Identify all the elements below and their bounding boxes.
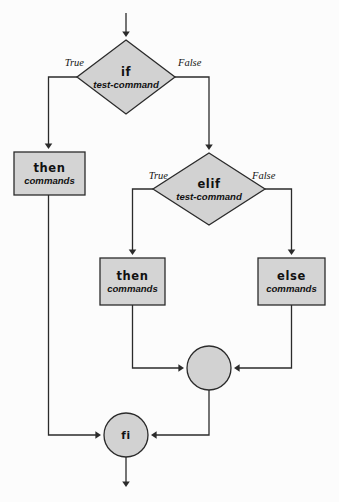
if-false-edge-label: False	[177, 57, 202, 68]
if-true-connector	[49, 77, 78, 146]
elif-subtitle-label: test-command	[176, 191, 243, 202]
node-then-secondary[interactable]: then commands	[100, 258, 165, 305]
elif-true-edge-label: True	[149, 170, 169, 181]
elif-false-connector	[265, 189, 292, 252]
node-if-decision[interactable]: if test-command	[77, 40, 175, 114]
then-secondary-to-merge-connector	[133, 305, 182, 368]
then-secondary-keyword-label: then	[116, 269, 148, 283]
merge-to-fi-connector	[154, 390, 209, 435]
else-subtitle-label: commands	[266, 283, 317, 294]
node-merge-junction[interactable]	[187, 346, 231, 390]
then-primary-subtitle-label: commands	[24, 175, 75, 186]
node-fi-terminator[interactable]: fi	[104, 413, 148, 457]
else-keyword-label: else	[277, 269, 306, 283]
then-primary-to-fi-connector	[49, 195, 99, 435]
if-keyword-label: if	[121, 65, 132, 79]
then-secondary-subtitle-label: commands	[107, 283, 158, 294]
fi-keyword-label: fi	[121, 429, 130, 441]
if-false-connector	[175, 77, 209, 147]
elif-true-connector	[133, 189, 154, 252]
elif-keyword-label: elif	[197, 177, 220, 191]
if-subtitle-label: test-command	[93, 79, 160, 90]
then-primary-keyword-label: then	[33, 161, 65, 175]
node-else-block[interactable]: else commands	[258, 258, 325, 305]
flowchart-canvas: if test-command elif test-command then c…	[0, 0, 339, 502]
elif-false-edge-label: False	[251, 170, 276, 181]
if-elif-else-flowchart: if test-command elif test-command then c…	[0, 0, 339, 502]
merge-circle-shape	[187, 346, 231, 390]
node-elif-decision[interactable]: elif test-command	[153, 153, 265, 225]
node-then-primary[interactable]: then commands	[14, 152, 85, 195]
if-true-edge-label: True	[65, 57, 85, 68]
else-to-merge-connector	[237, 305, 292, 368]
